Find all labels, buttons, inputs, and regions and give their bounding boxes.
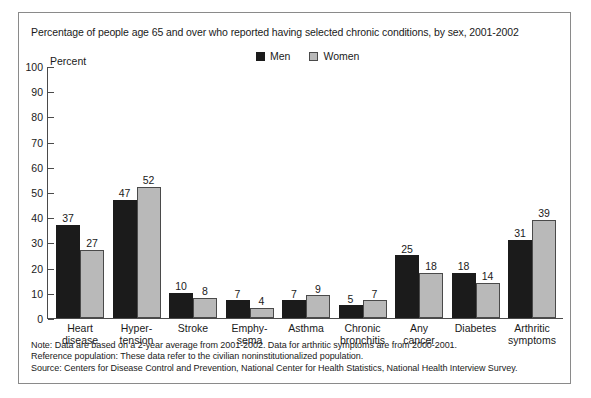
legend-label: Men [270, 50, 290, 62]
plot-area: 1009080706050403020100 3727Heartdisease4… [47, 67, 563, 319]
y-axis-tick-label: 40 [31, 213, 43, 224]
legend-item-women: Women [309, 50, 359, 62]
bar-value-label: 52 [143, 175, 155, 186]
footnote-reference-population: Reference population: These data refer t… [31, 351, 517, 363]
x-axis-category-label-line: Any [403, 323, 435, 335]
y-axis-title: Percent [50, 55, 86, 67]
bar-value-label: 47 [119, 188, 131, 199]
bar-groups: 3727Heartdisease4752Hyper-tension108Stro… [48, 67, 563, 318]
legend-label: Women [323, 50, 359, 62]
legend-swatch-icon [309, 52, 318, 61]
bar-value-label: 25 [401, 244, 413, 255]
x-axis-category-label-line: Emphy- [231, 323, 267, 335]
x-axis-category-label-line: Asthma [288, 323, 324, 335]
bar-women: 7 [363, 300, 387, 318]
bar-men: 7 [226, 300, 250, 318]
bar-value-label: 27 [86, 238, 98, 249]
chart-title: Percentage of people age 65 and over who… [31, 26, 519, 38]
bar-men: 47 [113, 200, 137, 318]
bar-group: 108Stroke [169, 67, 217, 318]
x-axis-category-label-line: Diabetes [455, 323, 496, 335]
legend-item-men: Men [256, 50, 290, 62]
y-axis-tick-label: 90 [31, 87, 43, 98]
y-axis-tick-label: 0 [37, 314, 43, 325]
bar-value-label: 14 [482, 271, 494, 282]
y-axis-tick-mark [48, 319, 54, 320]
bar-women: 39 [532, 220, 556, 318]
chart-legend: MenWomen [256, 50, 359, 62]
x-axis-category-label: Stroke [178, 323, 208, 335]
bar-value-label: 7 [372, 289, 378, 300]
bar-group: 74Emphy-sema [226, 67, 274, 318]
chart-figure: Percentage of people age 65 and over who… [18, 12, 571, 384]
bar-group: 4752Hyper-tension [113, 67, 161, 318]
bar-value-label: 37 [62, 213, 74, 224]
bar-value-label: 18 [458, 261, 470, 272]
bar-value-label: 5 [348, 294, 354, 305]
footnote-source: Source: Centers for Disease Control and … [31, 363, 517, 375]
bar-men: 37 [56, 225, 80, 318]
x-axis-line [47, 318, 563, 319]
y-axis-tick-label: 50 [31, 188, 43, 199]
footnote-note: Note: Data are based on a 2-year average… [31, 340, 517, 352]
bar-value-label: 18 [425, 261, 437, 272]
bar-women: 27 [80, 250, 104, 318]
y-axis-tick-label: 20 [31, 263, 43, 274]
x-axis-category-label-line: Stroke [178, 323, 208, 335]
legend-swatch-icon [256, 52, 265, 61]
y-axis-tick-label: 100 [25, 62, 43, 73]
bar-group: 57Chronicbronchitis [339, 67, 387, 318]
y-axis-tick-label: 80 [31, 112, 43, 123]
bar-group: 1814Diabetes [452, 67, 500, 318]
bar-men: 18 [452, 273, 476, 318]
bar-value-label: 4 [259, 296, 265, 307]
x-axis-category-label-line: Heart [62, 323, 98, 335]
bar-men: 31 [508, 240, 532, 318]
y-axis-tick-label: 70 [31, 137, 43, 148]
bar-value-label: 39 [538, 208, 550, 219]
bar-group: 2518Anycancer [395, 67, 443, 318]
bar-value-label: 9 [315, 284, 321, 295]
y-axis-tick-label: 60 [31, 163, 43, 174]
bar-group: 3139Arthriticsymptoms [508, 67, 556, 318]
bar-value-label: 8 [202, 286, 208, 297]
bar-value-label: 7 [291, 289, 297, 300]
bar-women: 9 [306, 295, 330, 318]
x-axis-category-label-line: Hyper- [120, 323, 154, 335]
bar-value-label: 31 [514, 228, 526, 239]
x-axis-category-label: Diabetes [455, 323, 496, 335]
bar-group: 79Asthma [282, 67, 330, 318]
bar-men: 5 [339, 305, 363, 318]
bar-men: 10 [169, 293, 193, 318]
bar-women: 14 [476, 283, 500, 318]
x-axis-category-label-line: Chronic [340, 323, 385, 335]
bar-men: 25 [395, 255, 419, 318]
bar-women: 4 [250, 308, 274, 318]
bar-women: 18 [419, 273, 443, 318]
bar-women: 8 [193, 298, 217, 318]
bar-value-label: 10 [175, 281, 187, 292]
x-axis-category-label-line: Arthritic [508, 323, 556, 335]
bar-women: 52 [137, 187, 161, 318]
bar-value-label: 7 [235, 289, 241, 300]
y-axis-tick-label: 10 [31, 289, 43, 300]
bar-men: 7 [282, 300, 306, 318]
bar-group: 3727Heartdisease [56, 67, 104, 318]
x-axis-category-label: Asthma [288, 323, 324, 335]
footnotes: Note: Data are based on a 2-year average… [31, 340, 517, 375]
y-axis-tick-label: 30 [31, 238, 43, 249]
